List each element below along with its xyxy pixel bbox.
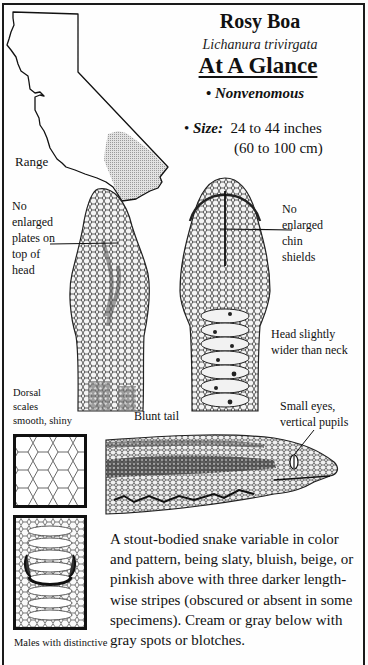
annotation-line: Head slightly (271, 326, 348, 342)
chin-annotation: No enlarged chin shields (282, 201, 323, 265)
male-spurs-inset (13, 515, 87, 630)
size-cm: (60 to 100 cm) (184, 138, 323, 158)
size-label: Size: (193, 120, 223, 136)
annotation-line: shields (282, 249, 323, 265)
dorsal-scales-annotation: Dorsal scales smooth, shiny (13, 386, 72, 428)
head-width-annotation: Head slightly wider than neck (271, 326, 348, 358)
annotation-line: Small eyes, (280, 398, 348, 414)
size-info: • Size: 24 to 44 inches (60 to 100 cm) (184, 118, 323, 158)
annotation-line: chin (282, 233, 323, 249)
eyes-annotation: Small eyes, vertical pupils (280, 398, 348, 430)
scientific-name: Lichanura trivirgata (144, 37, 368, 53)
at-a-glance-heading: At A Glance (142, 53, 368, 79)
bullet: • (206, 85, 211, 101)
range-label: Range (15, 154, 48, 170)
species-title: Rosy Boa (160, 10, 360, 33)
annotation-line: enlarged (282, 217, 323, 233)
annotation-line: wider than neck (271, 342, 348, 358)
annotation-line: Dorsal (13, 386, 72, 400)
venom-status-text: Nonvenomous (215, 85, 304, 101)
bullet: • (184, 120, 189, 136)
top-head-pointer-line (50, 242, 120, 246)
ventral-head-illustration (170, 176, 280, 416)
venom-status: • Nonvenomous (150, 85, 360, 102)
dorsal-scales-inset (13, 434, 87, 508)
lateral-body-illustration (104, 430, 344, 520)
blunt-tail-annotation: Blunt tail (134, 408, 179, 424)
annotation-line: vertical pupils (280, 414, 348, 430)
annotation-line: No (282, 201, 323, 217)
size-inches: 24 to 44 inches (231, 120, 322, 136)
males-caption: Males with distinctive (14, 636, 107, 650)
california-range-map (0, 0, 180, 210)
species-description: A stout-bodied snake variable in color a… (110, 529, 360, 650)
annotation-line: scales (13, 400, 72, 414)
annotation-line: smooth, shiny (13, 414, 72, 428)
